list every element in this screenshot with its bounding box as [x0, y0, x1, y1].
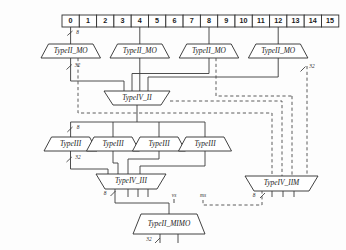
register-cell-4: 4	[138, 16, 142, 25]
signal-label-ms: ms	[200, 192, 206, 198]
block-typeiv-iim[interactable]: TypeIV_IIM	[245, 176, 318, 191]
block-typeii-mo-2[interactable]: TypeII_MO	[110, 44, 170, 58]
diagram-canvas: 0 1 2 3 4 5 6 7 8 9 10 11 12 13 14 15 8	[0, 0, 346, 250]
index-register-bar: 0 1 2 3 4 5 6 7 8 9 10 11 12 13 14 15	[62, 15, 339, 27]
block-typeiii-1-label: TypeIII	[60, 139, 82, 148]
diagram-svg: 0 1 2 3 4 5 6 7 8 9 10 11 12 13 14 15 8	[0, 0, 346, 250]
block-typeii-mo-4-label: TypeII_MO	[261, 46, 296, 55]
register-cell-11: 11	[257, 16, 265, 25]
register-cell-9: 9	[224, 16, 228, 25]
block-typeiii-2-label: TypeIII	[102, 139, 124, 148]
merge-outputs-to-mimo: 8 vs ms 8	[104, 189, 294, 214]
register-cell-6: 6	[172, 16, 176, 25]
block-typeii-mo-3-label: TypeII_MO	[192, 46, 227, 55]
width-label-top-in: 8	[76, 29, 79, 35]
width-label-typeiv-iii-out: 8	[104, 190, 107, 196]
block-typeii-mo-1-label: TypeII_MO	[54, 46, 89, 55]
block-typeii-mo-4[interactable]: TypeII_MO	[248, 44, 308, 58]
block-typeiv-ii-label: TypeIV_II	[122, 93, 152, 102]
register-cell-15: 15	[326, 16, 334, 25]
block-typeiii-3-label: TypeIII	[148, 139, 170, 148]
block-typeiii-4[interactable]: TypeIII	[179, 137, 232, 151]
block-typeii-mo-2-label: TypeII_MO	[123, 46, 158, 55]
block-typeiii-2[interactable]: TypeIII	[87, 137, 140, 151]
width-label-mo-out-right: 32	[308, 63, 315, 69]
register-cell-12: 12	[274, 16, 282, 25]
register-cell-14: 14	[309, 16, 317, 25]
block-typeiii-4-label: TypeIII	[194, 139, 216, 148]
width-label-typeiv-iim-out: 8	[253, 192, 256, 198]
block-typeiii-3[interactable]: TypeIII	[133, 137, 186, 151]
block-typeiv-ii[interactable]: TypeIV_II	[104, 91, 170, 105]
dashed-bypass-bus	[78, 58, 307, 176]
mo-width-annotations: 32 32	[67, 62, 316, 71]
register-cell-0: 0	[69, 16, 73, 25]
block-typeiv-iii[interactable]: TypeIV_III	[96, 174, 166, 189]
block-typeii-mo-1[interactable]: TypeII_MO	[41, 44, 101, 58]
mimo-output-annotation: 32	[145, 234, 178, 243]
register-cell-8: 8	[207, 16, 211, 25]
typeiii-to-typeiv-iii-wires: 32	[67, 151, 206, 174]
register-cell-5: 5	[155, 16, 159, 25]
block-typeii-mimo[interactable]: TypeII_MIMO	[133, 214, 205, 234]
width-label-typeiii-in: 8	[77, 124, 80, 130]
bar-to-mo-wires: 8	[67, 27, 278, 44]
width-label-mo-out: 32	[74, 62, 81, 68]
block-typeii-mo-3[interactable]: TypeII_MO	[179, 44, 239, 58]
register-cell-1: 1	[86, 16, 90, 25]
typeiv-ii-output-bus: 8	[67, 105, 205, 137]
register-cell-10: 10	[240, 16, 248, 25]
block-typeiv-iim-label: TypeIV_IIM	[264, 178, 300, 187]
width-label-typeiii-out: 32	[74, 154, 81, 160]
register-cell-13: 13	[292, 16, 300, 25]
width-label-mimo-out: 32	[145, 236, 152, 242]
mo-to-typeiv-ii-wires	[71, 58, 279, 91]
register-cell-2: 2	[103, 16, 107, 25]
block-typeii-mimo-label: TypeII_MIMO	[148, 219, 191, 228]
signal-label-vs: vs	[172, 192, 177, 198]
register-cell-7: 7	[190, 16, 194, 25]
register-cell-3: 3	[121, 16, 125, 25]
block-typeiv-iii-label: TypeIV_III	[115, 176, 147, 185]
